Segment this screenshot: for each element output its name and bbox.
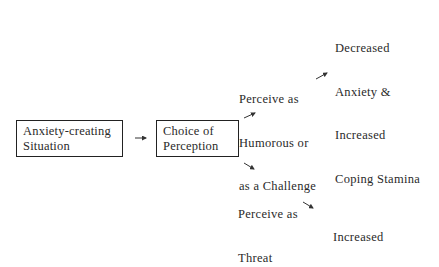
- node-line: Humorous or: [239, 136, 316, 151]
- node-line: Choice of: [163, 124, 238, 139]
- node-line: Anxiety &: [335, 85, 420, 100]
- arrow-up-right-icon: [316, 73, 327, 79]
- node-perceive-threat: Perceive as Threat: [238, 178, 298, 267]
- node-line: Coping Stamina: [335, 172, 420, 187]
- node-line: Threat: [238, 251, 298, 266]
- node-line: Increased: [333, 230, 418, 245]
- node-choice-of-perception: Choice of Perception: [156, 120, 239, 157]
- node-negative-outcome: Increased Anxiety & Decreased Coping Sta…: [333, 201, 418, 267]
- node-line: Perceive as: [238, 207, 298, 222]
- node-line: Increased: [335, 128, 420, 143]
- node-line: Perceive as: [239, 92, 316, 107]
- node-line: Decreased: [335, 41, 420, 56]
- node-positive-outcome: Decreased Anxiety & Increased Coping Sta…: [335, 12, 420, 215]
- node-line: Perception: [163, 139, 238, 154]
